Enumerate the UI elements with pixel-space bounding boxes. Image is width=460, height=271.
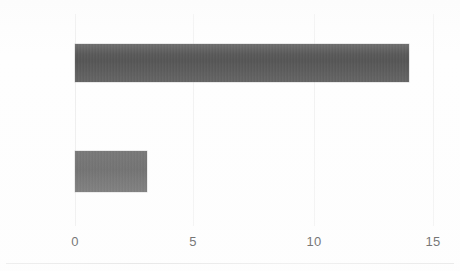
bar-as-vezes[interactable] <box>75 151 147 192</box>
xtick-label-0: 0 <box>71 234 78 249</box>
xtick-label-15: 15 <box>426 234 441 249</box>
page-bottom-rule <box>6 263 454 264</box>
bar-sempre[interactable] <box>75 44 409 82</box>
plot-area <box>75 14 433 226</box>
xtick-label-10: 10 <box>307 234 322 249</box>
xtick-label-5: 5 <box>189 234 196 249</box>
gridline-15 <box>433 14 434 226</box>
bar-chart: Sempre Às vezes 0 5 10 15 <box>0 0 460 271</box>
